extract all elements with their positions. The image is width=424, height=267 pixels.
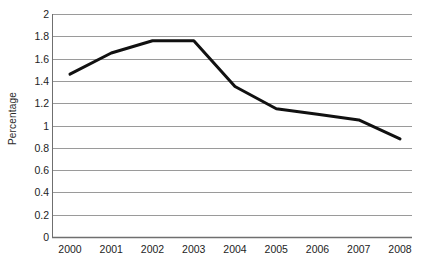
x-tick-label: 2000 xyxy=(58,243,81,255)
x-tick-label: 2005 xyxy=(265,243,288,255)
x-axis-tick-labels: 200020012002200320042005200620072008 xyxy=(0,0,424,267)
x-tick-label: 2003 xyxy=(182,243,205,255)
x-tick-label: 2008 xyxy=(388,243,411,255)
x-tick-label: 2002 xyxy=(141,243,164,255)
x-tick-label: 2001 xyxy=(100,243,123,255)
x-tick-label: 2007 xyxy=(347,243,370,255)
line-chart: Percentage 00.20.40.60.811.21.41.61.82 2… xyxy=(0,0,424,267)
x-tick-label: 2006 xyxy=(306,243,329,255)
x-tick-label: 2004 xyxy=(223,243,246,255)
